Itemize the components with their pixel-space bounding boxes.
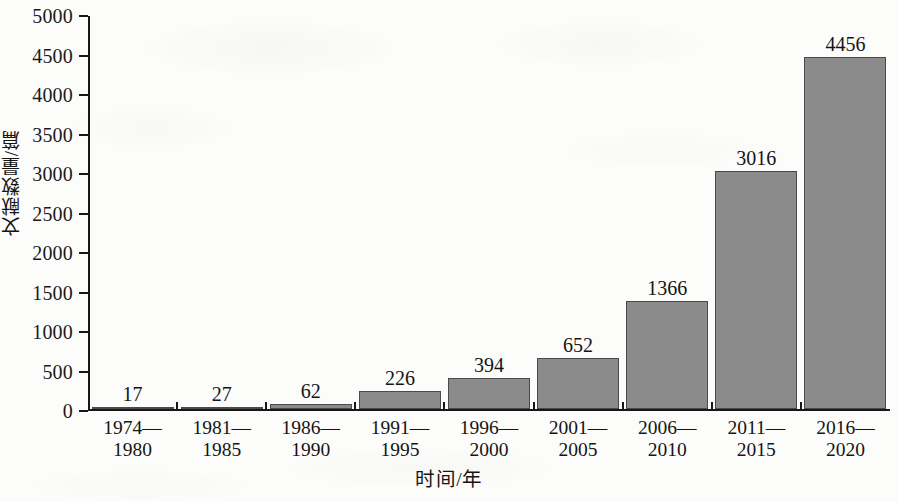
x-axis-tick	[176, 402, 178, 411]
bar-value-label: 4456	[825, 34, 865, 54]
bar-value-label: 394	[474, 355, 504, 375]
category-label-line-2: 2000	[444, 439, 533, 461]
category-label-line-1: 1996—	[460, 417, 519, 438]
x-axis-tick	[265, 402, 267, 411]
bar-value-label: 62	[301, 381, 321, 401]
y-axis-tick-label: 3000	[32, 164, 73, 184]
x-axis-category-label: 1986—1990	[266, 417, 355, 461]
category-label-line-1: 2001—	[549, 417, 608, 438]
bar-chart-figure: 文献数量/篇 050010001500200025003000350040004…	[0, 0, 898, 502]
x-axis-tick	[622, 402, 624, 411]
y-axis-tick-label: 2000	[32, 243, 73, 263]
category-label-line-2: 2005	[534, 439, 623, 461]
y-axis-tick: 0	[79, 410, 88, 412]
x-axis-category-label: 1981—1985	[177, 417, 266, 461]
plot-area: 0500100015002000250030003500400045005000…	[88, 16, 890, 411]
category-label-line-2: 2010	[623, 439, 712, 461]
bar-value-label: 652	[563, 335, 593, 355]
y-axis-tick-label: 2500	[32, 203, 73, 223]
y-axis-tick: 5000	[79, 15, 88, 17]
y-axis-tick-label: 1500	[32, 282, 73, 302]
y-axis-tick-label: 5000	[32, 6, 73, 26]
bar: 226	[359, 391, 441, 409]
x-axis-category-label: 1991—1995	[355, 417, 444, 461]
y-axis-tick-label: 3500	[32, 124, 73, 144]
x-axis-category-label: 2011—2015	[712, 417, 801, 461]
category-label-line-2: 2020	[801, 439, 890, 461]
x-axis-category-label: 2006—2010	[623, 417, 712, 461]
bar: 394	[448, 378, 530, 409]
bar: 4456	[804, 57, 886, 409]
x-axis-tick	[443, 402, 445, 411]
bar-value-label: 226	[385, 368, 415, 388]
y-axis-tick: 3500	[79, 134, 88, 136]
y-axis-tick: 500	[79, 371, 88, 373]
bar: 3016	[715, 171, 797, 409]
x-axis-category-label: 1974—1980	[88, 417, 177, 461]
y-axis-line	[88, 16, 90, 411]
category-label-line-2: 1980	[88, 439, 177, 461]
bar: 27	[181, 407, 263, 409]
y-axis-tick-label: 500	[42, 361, 73, 381]
x-axis-line	[88, 409, 890, 411]
x-axis-title: 时间/年	[0, 470, 898, 490]
y-axis-tick: 2000	[79, 252, 88, 254]
bar: 62	[270, 404, 352, 409]
bar: 1366	[626, 301, 708, 409]
category-label-line-2: 1985	[177, 439, 266, 461]
category-label-line-1: 1974—	[103, 417, 162, 438]
category-label-line-2: 2015	[712, 439, 801, 461]
x-axis-tick	[533, 402, 535, 411]
x-axis-category-label: 1996—2000	[444, 417, 533, 461]
bar: 17	[92, 407, 174, 409]
y-axis-tick: 4500	[79, 55, 88, 57]
y-axis-tick: 1500	[79, 292, 88, 294]
category-label-line-1: 1981—	[192, 417, 251, 438]
category-label-line-1: 1986—	[282, 417, 341, 438]
category-label-line-1: 2011—	[727, 417, 785, 438]
x-axis-category-label: 2016—2020	[801, 417, 890, 461]
category-label-line-1: 2016—	[816, 417, 875, 438]
y-axis-tick: 2500	[79, 213, 88, 215]
y-axis-tick: 4000	[79, 94, 88, 96]
bar-value-label: 17	[123, 384, 143, 404]
y-axis-tick-label: 1000	[32, 322, 73, 342]
category-label-line-1: 1991—	[371, 417, 430, 438]
y-axis-tick-label: 4500	[32, 45, 73, 65]
x-axis-tick	[800, 402, 802, 411]
category-label-line-2: 1990	[266, 439, 355, 461]
category-label-line-2: 1995	[355, 439, 444, 461]
y-axis-tick: 1000	[79, 331, 88, 333]
y-axis-tick-label: 0	[63, 401, 73, 421]
y-axis-tick-label: 4000	[32, 85, 73, 105]
x-axis-tick	[711, 402, 713, 411]
x-axis-category-label: 2001—2005	[534, 417, 623, 461]
category-label-line-1: 2006—	[638, 417, 697, 438]
y-axis-tick: 3000	[79, 173, 88, 175]
bar-value-label: 1366	[647, 278, 687, 298]
bar-value-label: 27	[212, 384, 232, 404]
x-axis-tick	[354, 402, 356, 411]
y-axis-title: 文献数量/篇	[2, 130, 28, 236]
bar-value-label: 3016	[736, 148, 776, 168]
bar: 652	[537, 358, 619, 410]
